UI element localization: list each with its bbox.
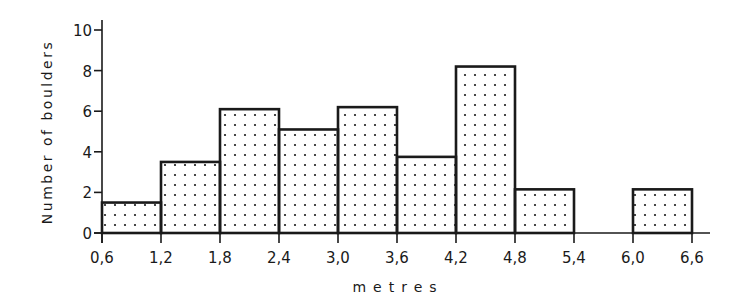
histogram-bar [220,109,279,233]
y-tick-label: 4 [82,144,92,162]
x-tick-label: 4,8 [503,249,527,267]
y-axis-ticks: 0246810 [73,22,102,243]
x-tick-label: 1,2 [149,249,173,267]
x-tick-label: 4,2 [444,249,468,267]
y-tick-label: 6 [82,103,92,121]
x-axis-ticks: 0,61,21,82,43,03,64,24,85,46,06,6 [90,233,704,267]
histogram-bar [633,189,692,233]
y-tick-label: 0 [82,225,92,243]
x-tick-label: 5,4 [562,249,586,267]
histogram-bar [338,107,397,233]
x-tick-label: 3,0 [326,249,350,267]
histogram-bar [279,129,338,233]
histogram-bar [161,162,220,233]
y-axis-label: Number of boulders [39,40,55,224]
x-tick-label: 2,4 [267,249,291,267]
x-axis-label: metres [352,279,443,295]
histogram-bar [456,67,515,233]
y-tick-label: 2 [82,184,92,202]
x-tick-label: 0,6 [90,249,114,267]
histogram-chart: 0246810 0,61,21,82,43,03,64,24,85,46,06,… [0,0,742,302]
histogram-bar [102,203,161,233]
y-tick-label: 10 [73,22,92,40]
x-tick-label: 3,6 [385,249,409,267]
histogram-bars [102,67,692,233]
x-tick-label: 6,6 [680,249,704,267]
x-tick-label: 1,8 [208,249,232,267]
y-tick-label: 8 [82,63,92,81]
histogram-bar [515,189,574,233]
x-tick-label: 6,0 [621,249,645,267]
histogram-bar [397,157,456,233]
